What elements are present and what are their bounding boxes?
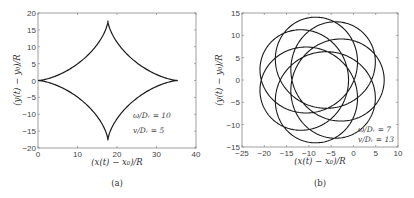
y-tick-label: −10: [226, 121, 240, 130]
y-tick-label: −15: [226, 143, 240, 152]
y-tick-label: 15: [231, 9, 240, 18]
plot-b-caption: (b): [314, 178, 326, 188]
x-tick-label: 10: [394, 149, 403, 158]
y-tick-label: 0: [236, 76, 241, 85]
plot-b-y-axis-label: (y(t) − y₀)/R: [214, 54, 224, 106]
y-tick-label: 5: [236, 54, 241, 63]
x-tick-label: 5: [373, 149, 378, 158]
panel-b: −25−20−15−10−50510−15−10−5051015 ω/Dᵣ = …: [0, 0, 414, 198]
plot-b-trochoid-curve: [260, 17, 384, 143]
y-tick-label: 10: [231, 31, 240, 40]
plot-b-annotation-omega: ω/Dᵣ = 7: [358, 125, 391, 134]
plot-b-x-axis-label: (x(t) − x₀)/R: [294, 156, 346, 166]
x-tick-label: 0: [351, 149, 356, 158]
plot-b-canvas: −25−20−15−10−50510−15−10−5051015 ω/Dᵣ = …: [0, 0, 414, 198]
y-tick-label: −5: [231, 98, 241, 107]
x-tick-label: −20: [257, 149, 271, 158]
plot-b-annotation-v: v/Dᵣ = 13: [358, 135, 394, 144]
x-tick-label: −15: [280, 149, 294, 158]
